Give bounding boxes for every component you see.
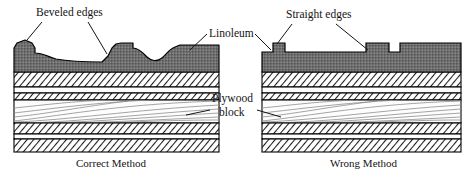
layer-thin-white-ply — [14, 87, 219, 93]
layer-backing-veneer — [14, 139, 219, 152]
layer-adhesive-veneer — [14, 72, 219, 87]
leader-line-beveled-left — [27, 22, 42, 40]
label-plywood-line2: block — [219, 106, 245, 118]
leader-line-beveled-right — [88, 22, 107, 54]
layer-thin-white-ply-2 — [262, 134, 461, 139]
leader-line-straight-right — [336, 24, 368, 50]
leader-line-linoleum-right — [255, 34, 271, 50]
label-linoleum: Linoleum — [209, 27, 254, 39]
caption-wrong-method: Wrong Method — [330, 157, 397, 169]
layer-cross-band — [14, 93, 219, 100]
panel-wrong-method — [262, 43, 461, 152]
label-plywood-line1: Plywood — [212, 92, 253, 104]
layer-cross-band — [262, 93, 461, 100]
plywood-stack-left — [14, 72, 219, 152]
linoleum-sheet-correct — [14, 40, 219, 72]
layer-backing-veneer — [262, 139, 461, 152]
linoleum-plywood-cross-section-figure: Beveled edges Straight edges Linoleum Pl… — [0, 0, 471, 183]
leader-line-straight-left — [277, 24, 292, 44]
layer-thin-white-ply — [262, 87, 461, 93]
linoleum-sheet-wrong — [262, 43, 461, 72]
plywood-stack-right — [262, 72, 461, 152]
label-straight-edges: Straight edges — [286, 8, 351, 20]
panel-correct-method — [14, 40, 219, 152]
layer-cross-band-2 — [14, 123, 219, 134]
label-beveled-edges: Beveled edges — [36, 6, 103, 18]
layer-thin-white-ply-2 — [14, 134, 219, 139]
layer-cross-band-2 — [262, 123, 461, 134]
layer-adhesive-veneer — [262, 72, 461, 87]
caption-correct-method: Correct Method — [76, 157, 146, 169]
